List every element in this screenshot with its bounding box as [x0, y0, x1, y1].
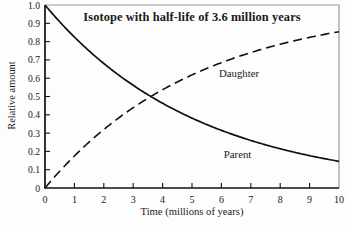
x-tick-label: 5	[190, 194, 195, 205]
y-tick-label: 0.7	[0, 54, 40, 65]
x-tick-label: 10	[334, 194, 344, 205]
decay-chart: Isotope with half-life of 3.6 million ye…	[0, 0, 350, 232]
y-tick-label: 0.4	[0, 109, 40, 120]
plot-canvas	[0, 0, 350, 232]
x-tick-label: 6	[219, 194, 224, 205]
x-tick-label: 9	[307, 194, 312, 205]
y-tick-label: 0.6	[0, 73, 40, 84]
x-tick-label: 8	[278, 194, 283, 205]
daughter-curve-label: Daughter	[219, 67, 259, 79]
y-tick-label: 1.0	[0, 0, 40, 11]
y-tick-label: 0.1	[0, 164, 40, 175]
x-tick-label: 0	[43, 194, 48, 205]
daughter-curve	[45, 32, 339, 188]
x-tick-label: 2	[101, 194, 106, 205]
x-axis-title: Time (millions of years)	[45, 206, 339, 217]
plot-frame	[45, 5, 339, 188]
y-tick-label: 0.2	[0, 146, 40, 157]
y-tick-label: 0.5	[0, 91, 40, 102]
chart-title: Isotope with half-life of 3.6 million ye…	[45, 10, 339, 25]
x-tick-label: 4	[160, 194, 165, 205]
y-tick-label: 0.8	[0, 36, 40, 47]
axes	[45, 5, 339, 188]
parent-curve-label: Parent	[224, 148, 252, 160]
parent-curve	[45, 5, 339, 161]
y-tick-label: 0.3	[0, 128, 40, 139]
x-tick-label: 1	[72, 194, 77, 205]
y-tick-label: 0	[0, 183, 40, 194]
x-tick-label: 7	[248, 194, 253, 205]
x-tick-label: 3	[131, 194, 136, 205]
y-tick-label: 0.9	[0, 18, 40, 29]
